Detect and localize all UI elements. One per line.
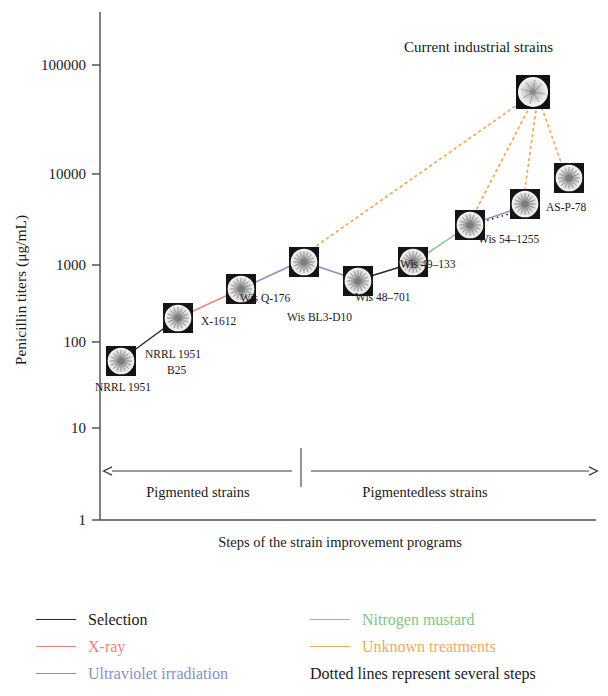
data-point-group (106, 75, 584, 376)
y-tick-label-1: 1 (79, 512, 87, 528)
legend-swatch-xray (36, 646, 76, 647)
label-nrrl-1951-b25-line2: B25 (167, 364, 186, 376)
legend-column-right: Nitrogen mustard Unknown treatments Dott… (310, 606, 536, 687)
label-as-p-78: AS-P-78 (546, 201, 587, 213)
label-wis-bl3-d10: Wis BL3-D10 (287, 311, 352, 323)
legend-swatch-unknown-treatments (310, 646, 350, 647)
y-tick-label-10: 10 (71, 420, 86, 436)
edge-dotted-current-to-asp78 (542, 108, 563, 168)
label-wis-49-133: Wis 49–133 (400, 258, 456, 270)
legend-label-selection: Selection (88, 611, 148, 629)
chart-legend: Selection X-ray Ultraviolet irradiation … (0, 606, 608, 696)
legend-label-nitrogen-mustard: Nitrogen mustard (362, 611, 474, 629)
y-tick-label-100000: 100000 (41, 57, 86, 73)
y-tick-label-100: 100 (64, 334, 87, 350)
legend-item-nitrogen-mustard[interactable]: Nitrogen mustard (310, 606, 536, 633)
label-wis-48-701: Wis 48–701 (355, 291, 411, 303)
legend-item-unknown-treatments[interactable]: Unknown treatments (310, 633, 536, 660)
legend-label-ultraviolet-irradiation: Ultraviolet irradiation (88, 665, 228, 683)
y-axis-title: Penicillin titers (μg/mL) (12, 215, 30, 365)
x-axis-title: Steps of the strain improvement programs (218, 534, 462, 550)
edge-dotted-wisq176-to-current (312, 103, 520, 249)
label-nrrl-1951: NRRL 1951 (95, 381, 151, 393)
range-label-pigmentedless: Pigmentedless strains (362, 484, 488, 500)
data-point-wis-54-1255[interactable] (510, 189, 540, 219)
data-point-current-industrial-strains[interactable] (516, 75, 550, 109)
legend-label-unknown-treatments: Unknown treatments (362, 638, 496, 656)
data-point-nrrl-1951[interactable] (106, 346, 136, 376)
legend-column-left: Selection X-ray Ultraviolet irradiation (36, 606, 228, 687)
penicillin-strain-improvement-figure: 100000 10000 1000 100 10 1 Penicillin ti… (0, 0, 608, 696)
label-wis-54-1255: Wis 54–1255 (478, 233, 539, 245)
legend-label-xray: X-ray (88, 638, 125, 656)
legend-swatch-ultraviolet-irradiation (36, 673, 76, 674)
label-x-1612: X-1612 (201, 315, 236, 327)
edge-dotted-wis541255-to-current (524, 110, 536, 196)
range-label-pigmented: Pigmented strains (146, 484, 250, 500)
annotation-current-industrial-strains: Current industrial strains (404, 39, 553, 55)
y-tick-label-10000: 10000 (49, 166, 87, 182)
label-wis-q-176: Wis Q-176 (240, 292, 291, 304)
data-point-as-p-78[interactable] (554, 163, 584, 193)
y-tick-label-1000: 1000 (56, 257, 86, 273)
legend-item-xray[interactable]: X-ray (36, 633, 228, 660)
legend-swatch-selection (36, 619, 76, 620)
legend-item-selection[interactable]: Selection (36, 606, 228, 633)
legend-swatch-nitrogen-mustard (310, 619, 350, 620)
data-point-nrrl-1951-b25[interactable] (163, 303, 193, 333)
legend-note-dotted-lines: Dotted lines represent several steps (310, 660, 536, 687)
chart-plot-area: 100000 10000 1000 100 10 1 Penicillin ti… (0, 0, 608, 600)
label-nrrl-1951-b25-line1: NRRL 1951 (145, 348, 201, 360)
data-point-wis-q-176[interactable] (289, 247, 319, 277)
legend-item-ultraviolet-irradiation[interactable]: Ultraviolet irradiation (36, 660, 228, 687)
